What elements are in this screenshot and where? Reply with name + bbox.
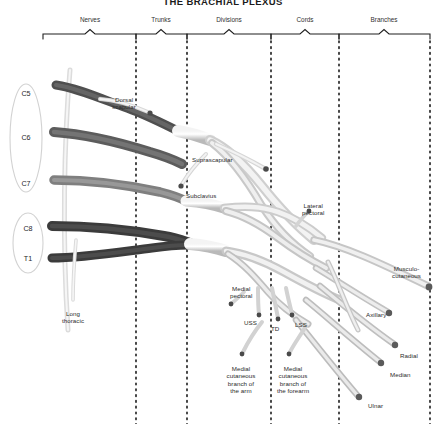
label-suprascapular: Suprascapular (192, 156, 233, 163)
label-subclavius: Subclavius (186, 192, 216, 199)
label-musculocutaneous: Musculo- cutaneous (392, 265, 421, 280)
label-radial: Radial (400, 352, 418, 359)
twig-uss (258, 288, 259, 314)
root-c6 (54, 132, 182, 164)
root-label-t1: T1 (24, 254, 32, 263)
root-label-c8: C8 (23, 224, 32, 233)
brachial-plexus-illustration (0, 0, 446, 424)
root-label-c7: C7 (21, 179, 30, 188)
label-medial-cutaneous-arm: Medial cutaneous branch of the arm (226, 365, 255, 395)
section-label-nerves: Nerves (80, 16, 100, 23)
label-lss: LSS (295, 321, 307, 328)
label-medial-cutaneous-forearm: Medial cutaneous branch of the forearm (277, 365, 309, 395)
twig-mc-forearm (290, 326, 306, 352)
label-median: Median (390, 371, 411, 378)
lower-trunk (190, 244, 226, 251)
label-lateral-pectoral: Lateral pectoral (302, 202, 324, 217)
twig-mc-arm (243, 322, 262, 352)
label-dorsal-scapular: Dorsal scapular (112, 96, 136, 111)
label-medial-pectoral: Medial pectoral (230, 285, 252, 300)
nerve-roots (52, 85, 190, 258)
label-td: TD (271, 325, 279, 332)
label-uss: USS (244, 319, 257, 326)
label-long-thoracic: Long thoracic (62, 310, 84, 325)
label-axillary: Axillary (366, 311, 386, 318)
section-label-trunks: Trunks (151, 16, 170, 23)
section-brackets (43, 30, 430, 40)
section-label-branches: Branches (371, 16, 398, 23)
section-label-divisions: Divisions (216, 16, 242, 23)
diagram-canvas: THE BRACHIAL PLEXUS (0, 0, 446, 424)
section-label-cords: Cords (296, 16, 313, 23)
middle-trunk (186, 201, 224, 208)
spinal-cord (64, 70, 70, 330)
root-label-c5: C5 (21, 89, 30, 98)
root-label-c6: C6 (21, 133, 30, 142)
label-ulnar: Ulnar (368, 402, 383, 409)
